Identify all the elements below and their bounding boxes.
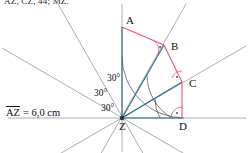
measure-segment-label: AZ [6, 106, 20, 118]
measure-annotation: AZ= 6,0 cm [6, 106, 60, 118]
point-label-Z: Z [119, 121, 126, 132]
angle-label-2: 30° [94, 89, 107, 99]
point-label-A: A [126, 15, 134, 26]
point-label-B: B [171, 41, 178, 52]
point-label-D: D [179, 121, 187, 132]
geometry-figure: AZ, CZ, 44; MZ. [0, 0, 250, 153]
arc-30-second [147, 75, 172, 118]
point-label-C: C [189, 78, 196, 89]
measure-segment-value: = 6,0 cm [20, 107, 60, 118]
segment-ZB [122, 45, 164, 118]
segment-AB [122, 27, 164, 45]
arc-30-first [155, 99, 160, 118]
right-angle-dot-B [159, 46, 161, 48]
right-angle-dot-D [176, 112, 178, 114]
angle-label-3: 30° [107, 74, 120, 84]
angle-label-1: 30° [101, 104, 114, 114]
right-angle-dot-C [176, 76, 178, 78]
ray-150deg [2, 48, 226, 153]
